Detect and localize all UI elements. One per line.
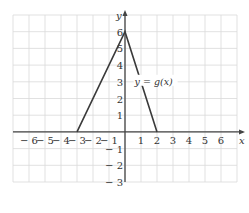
x-tick-label: 1: [138, 135, 144, 146]
y-tick-label: − 1: [105, 144, 123, 155]
x-tick-label: 3: [170, 135, 176, 146]
y-tick-label: 2: [117, 94, 123, 105]
y-axis-arrow-icon: [123, 10, 128, 16]
function-label: y = g(x): [134, 76, 174, 87]
x-axis-label: x: [239, 135, 245, 146]
x-tick-label: 6: [218, 135, 224, 146]
y-tick-label: − 3: [105, 177, 123, 188]
x-axis-arrow-icon: [239, 129, 245, 134]
y-tick-label: 1: [117, 110, 123, 121]
y-tick-label: 3: [117, 77, 123, 88]
x-tick-label: 5: [202, 135, 208, 146]
axes: [13, 10, 245, 182]
x-tick-label: 4: [186, 135, 192, 146]
x-tick-label: 2: [154, 135, 160, 146]
tick-labels: − 6− 5− 4− 3− 2− 1123456654321− 1− 2− 3: [20, 27, 224, 188]
graph: − 6− 5− 4− 3− 2− 1123456654321− 1− 2− 3 …: [0, 0, 249, 213]
y-tick-label: − 2: [105, 160, 123, 171]
axis-labels: xyy = g(x): [115, 10, 245, 146]
y-axis-label: y: [115, 10, 122, 21]
y-tick-label: 4: [117, 60, 123, 71]
